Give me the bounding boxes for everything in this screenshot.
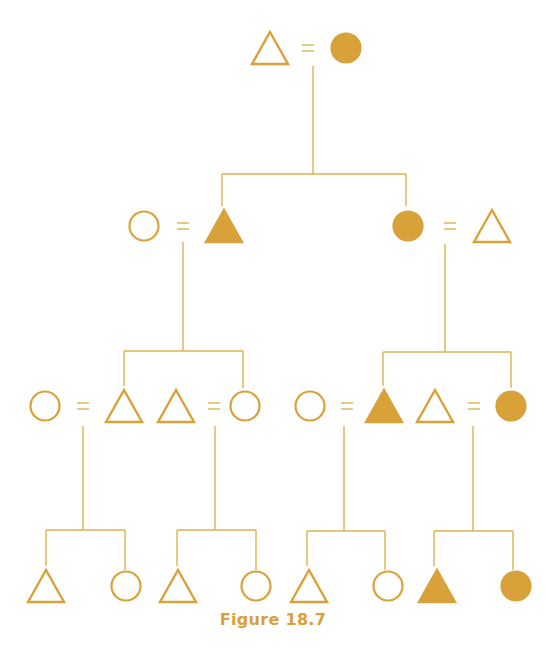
filled-circle-icon	[394, 212, 423, 241]
circle-icon	[130, 212, 159, 241]
triangle-icon	[158, 390, 194, 422]
equals-marriage-icon	[468, 403, 480, 409]
kin-symbols	[28, 32, 531, 602]
filled-triangle-icon	[419, 570, 455, 602]
triangle-icon	[291, 570, 327, 602]
triangle-icon	[417, 390, 453, 422]
triangle-icon	[106, 390, 142, 422]
equals-marriage-icon	[302, 45, 314, 51]
equals-marriage-icon	[77, 403, 89, 409]
descent-lines	[46, 66, 513, 570]
circle-icon	[242, 572, 271, 601]
kinship-diagram	[0, 0, 546, 657]
filled-circle-icon	[502, 572, 531, 601]
circle-icon	[231, 392, 260, 421]
circle-icon	[374, 572, 403, 601]
filled-triangle-icon	[366, 390, 402, 422]
triangle-icon	[252, 32, 288, 64]
triangle-icon	[474, 210, 510, 242]
circle-icon	[296, 392, 325, 421]
equals-marriage-icon	[341, 403, 353, 409]
triangle-icon	[160, 570, 196, 602]
equals-marriage-icon	[177, 223, 189, 229]
filled-triangle-icon	[206, 210, 242, 242]
triangle-icon	[28, 570, 64, 602]
circle-icon	[112, 572, 141, 601]
equals-marriage-icon	[444, 223, 456, 229]
figure-caption: Figure 18.7	[0, 610, 546, 629]
equals-marriage-icon	[208, 403, 220, 409]
circle-icon	[31, 392, 60, 421]
filled-circle-icon	[497, 392, 526, 421]
filled-circle-icon	[332, 34, 361, 63]
